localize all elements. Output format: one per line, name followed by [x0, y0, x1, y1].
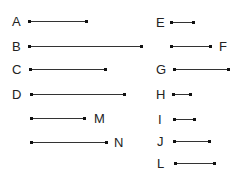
segment-a-start-point: [28, 20, 31, 23]
segment-m-line: [31, 118, 84, 119]
segment-j-label: J: [157, 135, 164, 148]
segment-h-line: [173, 94, 190, 95]
segment-j-start-point: [173, 140, 176, 143]
segment-d-start-point: [30, 93, 33, 96]
segment-n-end-point: [105, 141, 108, 144]
segment-a-line: [29, 21, 86, 22]
segment-e-line: [171, 22, 193, 23]
segment-a-label: A: [12, 15, 21, 28]
segment-b-start-point: [28, 45, 31, 48]
segment-f-start-point: [170, 45, 173, 48]
segment-g-start-point: [173, 68, 176, 71]
segment-e-end-point: [192, 21, 195, 24]
segment-h-start-point: [172, 93, 175, 96]
segment-l-end-point: [213, 162, 216, 165]
segment-f-label: F: [219, 40, 227, 53]
segment-m-start-point: [30, 117, 33, 120]
segment-i-line: [174, 119, 194, 120]
segment-g-line: [174, 69, 228, 70]
segment-l-label: L: [157, 157, 164, 170]
segment-l-line: [175, 163, 214, 164]
segment-c-start-point: [29, 68, 32, 71]
segment-h-label: H: [156, 88, 165, 101]
segment-f-line: [171, 46, 210, 47]
segment-c-label: C: [12, 63, 21, 76]
segment-c-end-point: [104, 68, 107, 71]
segment-m-label: M: [94, 112, 105, 125]
segment-n-label: N: [114, 136, 123, 149]
segment-g-end-point: [227, 68, 230, 71]
segment-n-start-point: [30, 141, 33, 144]
segment-i-label: I: [158, 113, 162, 126]
segment-d-line: [31, 94, 124, 95]
segment-j-line: [174, 141, 209, 142]
segment-e-start-point: [170, 21, 173, 24]
segment-f-end-point: [209, 45, 212, 48]
segment-b-label: B: [12, 40, 21, 53]
segment-m-end-point: [83, 117, 86, 120]
segment-d-end-point: [123, 93, 126, 96]
segment-e-label: E: [156, 16, 165, 29]
segment-h-end-point: [189, 93, 192, 96]
segment-i-end-point: [193, 118, 196, 121]
segment-b-end-point: [140, 45, 143, 48]
segment-d-label: D: [12, 88, 21, 101]
segment-c-line: [30, 69, 105, 70]
segment-n-line: [31, 142, 106, 143]
segment-b-line: [29, 46, 141, 47]
segment-a-end-point: [85, 20, 88, 23]
segment-i-start-point: [173, 118, 176, 121]
segment-j-end-point: [208, 140, 211, 143]
segment-g-label: G: [156, 63, 166, 76]
segment-l-start-point: [174, 162, 177, 165]
